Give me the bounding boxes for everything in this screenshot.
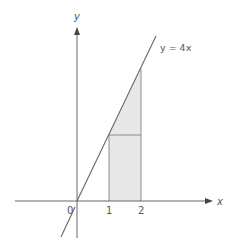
x-axis-label: x — [216, 196, 223, 207]
tick-label-1: 1 — [106, 205, 112, 216]
y-axis-arrow-icon — [74, 27, 80, 35]
y-axis-label: y — [73, 11, 81, 22]
line-label: y = 4x — [160, 42, 192, 53]
tick-label-2: 2 — [138, 205, 144, 216]
origin-label: 0 — [67, 205, 73, 216]
diagram-canvas: y x y = 4x 0 1 2 — [0, 0, 234, 246]
x-axis-arrow-icon — [205, 198, 213, 204]
